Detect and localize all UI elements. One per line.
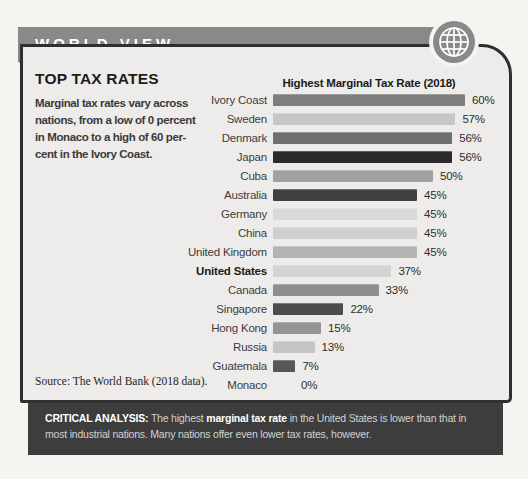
bar-row: Australia45% <box>160 185 510 204</box>
bar-row: Germany45% <box>160 204 510 223</box>
bar-row: Canada33% <box>160 280 510 299</box>
bar <box>273 284 379 296</box>
country-label: Singapore <box>160 303 273 315</box>
critical-analysis-text: CRITICAL ANALYSIS: The highest marginal … <box>28 403 503 442</box>
critical-analysis-bar: CRITICAL ANALYSIS: The highest marginal … <box>28 403 503 455</box>
value-label: 15% <box>328 322 350 334</box>
bar-row: Japan56% <box>160 147 510 166</box>
value-label: 56% <box>459 151 481 163</box>
country-label: Sweden <box>160 113 273 125</box>
value-label: 13% <box>322 341 344 353</box>
panel-heading: TOP TAX RATES <box>35 70 159 88</box>
bar-row: Singapore22% <box>160 299 510 318</box>
globe-icon <box>429 17 479 67</box>
bar <box>273 113 455 125</box>
bar-row: Cuba50% <box>160 166 510 185</box>
bar <box>273 360 295 372</box>
bar <box>273 94 465 106</box>
bar <box>273 341 315 353</box>
bar <box>273 132 452 144</box>
bar <box>273 227 417 239</box>
bar-row: Guatemala7% <box>160 356 510 375</box>
country-label: Germany <box>160 208 273 220</box>
bar-chart: Ivory Coast60%Sweden57%Denmark56%Japan56… <box>160 90 510 394</box>
value-label: 22% <box>350 303 372 315</box>
bar-row: Hong Kong15% <box>160 318 510 337</box>
value-label: 50% <box>440 170 462 182</box>
value-label: 45% <box>424 208 446 220</box>
country-label: Japan <box>160 151 273 163</box>
bar-row: China45% <box>160 223 510 242</box>
bar <box>273 189 417 201</box>
bar <box>273 151 452 163</box>
bar-row: Monaco0% <box>160 375 510 394</box>
value-label: 37% <box>398 265 420 277</box>
value-label: 60% <box>472 94 494 106</box>
country-label: Monaco <box>160 379 273 391</box>
country-label: Canada <box>160 284 273 296</box>
country-label: Australia <box>160 189 273 201</box>
value-label: 45% <box>424 227 446 239</box>
bar-row: Sweden57% <box>160 109 510 128</box>
worldview-figure: WORLD VIEW TOP TAX RATES Marginal tax ra… <box>0 0 528 479</box>
bar-row: United States37% <box>160 261 510 280</box>
bar <box>273 303 343 315</box>
country-label: Denmark <box>160 132 273 144</box>
value-label: 33% <box>386 284 408 296</box>
country-label: United Kingdom <box>160 246 273 258</box>
value-label: 45% <box>424 189 446 201</box>
country-label: Hong Kong <box>160 322 273 334</box>
bar <box>273 170 433 182</box>
value-label: 57% <box>462 113 484 125</box>
bar <box>273 322 321 334</box>
country-label: Cuba <box>160 170 273 182</box>
country-label: China <box>160 227 273 239</box>
footer-bold-text: CRITICAL ANALYSIS: <box>45 412 148 424</box>
bar <box>273 265 391 277</box>
footer-body-text: The highest <box>148 412 206 424</box>
country-label: United States <box>160 265 273 277</box>
bar-row: Denmark56% <box>160 128 510 147</box>
content-panel: TOP TAX RATES Marginal tax rates vary ac… <box>20 44 512 403</box>
value-label: 7% <box>302 360 318 372</box>
chart-title: Highest Marginal Tax Rate (2018) <box>254 77 484 89</box>
country-label: Russia <box>160 341 273 353</box>
bar-row: Ivory Coast60% <box>160 90 510 109</box>
country-label: Guatemala <box>160 360 273 372</box>
value-label: 56% <box>459 132 481 144</box>
bar-row: Russia13% <box>160 337 510 356</box>
footer-bold-text: marginal tax rate <box>206 412 287 424</box>
value-label: 0% <box>301 379 317 391</box>
value-label: 45% <box>424 246 446 258</box>
bar <box>273 246 417 258</box>
bar-row: United Kingdom45% <box>160 242 510 261</box>
country-label: Ivory Coast <box>160 94 273 106</box>
bar <box>273 208 417 220</box>
